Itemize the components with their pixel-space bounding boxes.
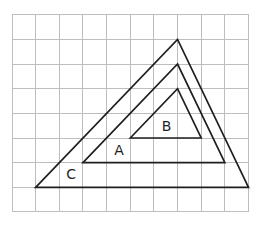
similar-triangles-diagram: CAB [0,0,255,228]
triangle-labels: CAB [66,118,171,182]
triangle-label-b: B [162,118,172,134]
triangle-label-c: C [66,166,76,182]
triangle-label-a: A [114,142,124,158]
